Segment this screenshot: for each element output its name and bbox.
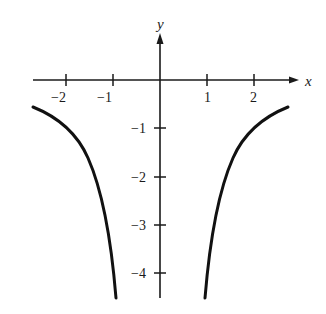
- x-tick-label: 1: [204, 90, 211, 105]
- x-tick-label: −1: [97, 90, 112, 105]
- y-tick-label: −2: [131, 170, 146, 185]
- x-axis-arrow-icon: [289, 77, 299, 84]
- left-branch-curve: [33, 107, 116, 298]
- y-tick-label: −1: [131, 121, 146, 136]
- x-tick-label: 2: [250, 90, 257, 105]
- x-axis-label: x: [304, 73, 312, 89]
- y-axis-arrow-icon: [157, 33, 164, 44]
- y-tick-label: −4: [131, 266, 146, 281]
- right-branch-curve: [205, 107, 288, 298]
- chart: x y −2 −1 1 2 −1 −2 −3 −4: [0, 0, 326, 314]
- y-axis-label: y: [155, 16, 164, 32]
- y-tick-label: −3: [131, 218, 146, 233]
- x-tick-label: −2: [51, 90, 66, 105]
